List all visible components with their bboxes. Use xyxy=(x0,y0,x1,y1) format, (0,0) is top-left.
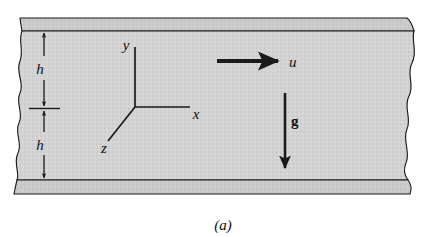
velocity-label: u xyxy=(289,54,297,70)
x-axis-label: x xyxy=(192,106,200,122)
fluid-region xyxy=(16,31,414,180)
channel-flow-figure: h h y x z u g (a) xyxy=(0,0,447,237)
z-axis-label: z xyxy=(100,140,107,156)
h-lower-label: h xyxy=(36,137,44,153)
figure-caption: (a) xyxy=(214,217,232,234)
top-wall xyxy=(20,18,414,31)
h-upper-label: h xyxy=(36,61,44,77)
bottom-wall xyxy=(14,180,411,194)
gravity-label: g xyxy=(291,113,299,129)
y-axis-label: y xyxy=(121,37,130,53)
figure-canvas: h h y x z u g (a) xyxy=(0,0,447,237)
